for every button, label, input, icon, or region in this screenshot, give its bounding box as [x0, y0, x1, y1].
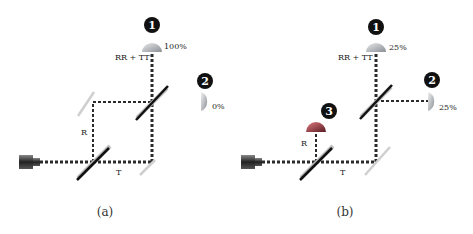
svg-text:3: 3: [325, 105, 333, 118]
beam-paths: [40, 52, 152, 162]
label-transmitted: T: [116, 168, 122, 177]
interferometer-diagram: RR + TT R T 1 100% 2 0% (a): [0, 0, 473, 234]
caption-a: (a): [97, 205, 114, 219]
detector-1-reading: 100%: [164, 42, 187, 51]
detector-2: 2 25%: [424, 72, 457, 112]
label-transmitted: T: [340, 168, 346, 177]
label-rr-tt: RR + TT: [115, 53, 150, 62]
beam-paths: [262, 52, 428, 162]
caption-b: (b): [336, 205, 353, 219]
mirror-bottom-right: [140, 160, 155, 175]
detector-2-reading: 25%: [439, 103, 457, 112]
label-reflected: R: [301, 139, 308, 148]
svg-text:1: 1: [372, 21, 380, 34]
svg-text:2: 2: [428, 74, 436, 87]
detector-2: 2 0%: [197, 73, 225, 111]
mirror-top-left: [78, 92, 94, 116]
panel-b: RR + TT R T 1 25% 2 25% 3 (b): [241, 19, 457, 219]
panel-a: RR + TT R T 1 100% 2 0% (a): [19, 17, 225, 219]
detector-1: 1 100%: [142, 17, 187, 52]
detector-2-reading: 0%: [212, 102, 225, 111]
laser-source: [241, 155, 262, 169]
detector-1-reading: 25%: [389, 43, 407, 52]
detector-3: 3: [306, 103, 337, 132]
label-rr-tt: RR + TT: [338, 53, 373, 62]
label-reflected: R: [81, 128, 88, 137]
svg-text:1: 1: [148, 19, 156, 32]
detector-1: 1 25%: [366, 19, 407, 52]
laser-source: [19, 155, 40, 169]
svg-text:2: 2: [201, 75, 209, 88]
